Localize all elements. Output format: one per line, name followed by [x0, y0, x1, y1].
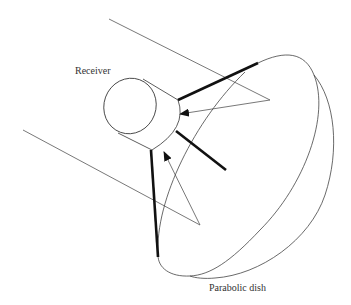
dish-inner-rim: [158, 55, 319, 276]
dish-outer-shell: [190, 75, 334, 278]
parabolic-dish-label: Parabolic dish: [209, 282, 266, 293]
parabolic-dish-diagram: Receiver Parabolic dish: [0, 0, 351, 305]
receiver-bottom-edge: [118, 133, 152, 150]
parabolic-dish: [158, 55, 334, 278]
lower-strut: [151, 150, 158, 257]
receiver-label: Receiver: [75, 65, 111, 76]
support-struts: [151, 63, 258, 257]
upper-strut: [178, 63, 258, 100]
receiver-back-face: [96, 71, 164, 141]
receiver-cylinder: [96, 71, 180, 150]
diagram-drawing: [0, 0, 351, 305]
top-reflected-ray[interactable]: [180, 100, 270, 114]
bottom-incoming-ray: [23, 130, 200, 225]
bottom-reflected-ray: [164, 152, 200, 225]
middle-strut: [176, 131, 226, 170]
